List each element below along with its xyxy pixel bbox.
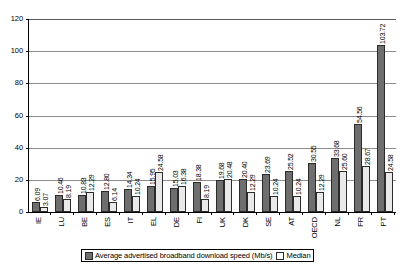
bar-value-label-lu-series2: 8.19 [65,185,72,198]
bar-value-label-ie-series2: 3.07 [42,193,49,206]
bar-value-label-uk-series1: 19.68 [217,163,224,180]
bar-at-series1: 25.52 [285,171,293,212]
y-tick-label-60: 60 [15,112,23,120]
bar-value-label-at-series1: 25.52 [286,153,293,170]
bar-group-nl: 33.6825.60 [327,19,350,212]
bar-value-label-pt-series1: 103.72 [378,24,385,44]
x-label-ie: IE [28,216,51,240]
bar-value-label-it-series1: 14.34 [126,171,133,188]
x-label-it: IT [120,216,143,240]
x-label-text-uk: UK [219,217,227,227]
bar-fr-series2: 28.67 [362,166,370,212]
x-label-text-lu: LU [59,217,67,226]
bar-group-it: 14.3410.24 [121,19,144,212]
legend-label-series1: Average advertised broadband download sp… [95,251,272,260]
x-label-text-se: SE [265,217,273,227]
bar-group-be: 10.8312.29 [75,19,98,212]
y-tick-label-0: 0 [19,208,23,216]
bar-pt-series1: 103.72 [377,45,385,212]
bar-value-label-at-series2: 10.24 [294,178,301,195]
bar-group-dk: 20.4012.29 [235,19,258,212]
x-label-text-at: AT [288,217,296,226]
x-label-el: EL [143,216,166,240]
bar-group-pt: 103.7224.58 [373,19,396,212]
bar-value-label-fi-series2: 8.19 [203,185,210,198]
bar-se-series2: 10.24 [270,196,278,212]
y-tick-label-120: 120 [11,15,23,23]
bar-dk-series2: 12.29 [247,192,255,212]
bar-value-label-oecd-series1: 30.55 [309,145,316,162]
bar-value-label-de-series2: 16.38 [180,168,187,185]
bar-value-label-ie-series1: 6.09 [34,188,41,201]
x-label-text-es: ES [105,217,113,227]
chart-legend: Average advertised broadband download sp… [81,249,314,262]
bar-value-label-fr-series1: 54.56 [355,107,362,124]
bar-group-lu: 10.468.19 [52,19,75,212]
x-label-oecd: OECD [303,216,326,240]
bar-lu-series2: 8.19 [63,199,71,212]
bar-value-label-se-series2: 10.24 [271,178,278,195]
bar-value-label-dk-series2: 12.29 [248,175,255,192]
bar-group-fr: 54.5628.67 [350,19,373,212]
bar-value-label-pt-series2: 24.58 [386,155,393,172]
bar-fi-series1: 18.38 [193,182,201,212]
bar-es-series2: 6.14 [109,202,117,212]
bar-value-label-fi-series1: 18.38 [195,165,202,182]
bar-value-label-es-series1: 12.80 [103,174,110,191]
y-tick-label-20: 20 [15,176,23,184]
bar-dk-series1: 20.40 [239,179,247,212]
bar-fr-series1: 54.56 [354,124,362,212]
bar-el-series2: 24.58 [155,172,163,212]
x-label-text-ie: IE [36,217,44,224]
bar-be-series1: 10.83 [78,195,86,212]
bar-nl-series1: 33.68 [331,158,339,212]
legend-item-average-speed: Average advertised broadband download sp… [85,251,272,260]
bar-it-series2: 10.24 [132,196,140,212]
x-label-text-de: DE [173,217,181,227]
bar-fi-series2: 8.19 [201,199,209,212]
bar-de-series1: 15.03 [170,188,178,212]
bar-be-series2: 12.29 [86,192,94,212]
bar-value-label-be-series2: 12.29 [88,175,95,192]
bar-value-label-oecd-series2: 12.29 [317,175,324,192]
bar-uk-series1: 19.68 [216,180,224,212]
bar-lu-series1: 10.46 [55,195,63,212]
x-label-lu: LU [51,216,74,240]
bar-group-fi: 18.388.19 [190,19,213,212]
bar-value-label-be-series1: 10.83 [80,177,87,194]
bar-es-series1: 12.80 [101,191,109,212]
bar-value-label-it-series2: 10.24 [134,178,141,195]
x-label-text-fi: FI [196,217,204,223]
x-label-uk: UK [212,216,235,240]
bar-group-se: 23.6910.24 [258,19,281,212]
bar-oecd-series2: 12.29 [316,192,324,212]
x-label-text-it: IT [127,217,135,223]
bar-group-el: 15.9524.58 [144,19,167,212]
bar-group-de: 15.0316.38 [167,19,190,212]
legend-label-series2: Median [286,251,310,260]
x-label-text-dk: DK [242,217,250,227]
bar-group-uk: 19.6820.48 [213,19,236,212]
y-axis-tick-labels: 020406080100120 [0,0,26,212]
legend-swatch-icon-series2 [276,252,284,260]
bar-ie-series1: 6.09 [32,202,40,212]
bar-at-series2: 10.24 [293,196,301,212]
x-label-se: SE [257,216,280,240]
plot-wrapper: 020406080100120 6.093.0710.468.1910.8312… [0,0,410,240]
bar-value-label-nl-series2: 25.60 [340,153,347,170]
y-tick-label-80: 80 [15,80,23,88]
legend-swatch-icon-series1 [85,252,93,260]
bar-oecd-series1: 30.55 [308,163,316,212]
bar-group-oecd: 30.5512.29 [304,19,327,212]
x-label-text-oecd: OECD [311,217,319,238]
bar-value-label-fr-series2: 28.67 [363,148,370,165]
bar-value-label-lu-series1: 10.46 [57,178,64,195]
bar-de-series2: 16.38 [178,186,186,212]
bar-group-ie: 6.093.07 [29,19,52,212]
x-label-fi: FI [189,216,212,240]
bar-value-label-el-series2: 24.58 [157,155,164,172]
x-label-text-fr: FR [357,217,365,227]
bar-value-label-dk-series1: 20.40 [240,162,247,179]
bars-layer: 6.093.0710.468.1910.8312.2912.806.1414.3… [29,19,396,212]
x-label-text-nl: NL [334,217,342,226]
